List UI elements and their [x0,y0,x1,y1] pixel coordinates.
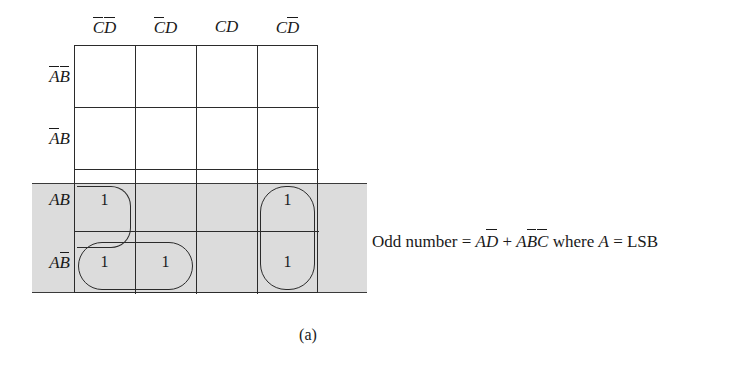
row-header-2: AB [18,189,70,211]
equation-where: where [553,232,595,251]
group-loop-ad-bar [260,186,315,290]
equation-rhs: LSB [627,232,658,251]
equation-term-2: ABC [516,232,548,251]
cell-r1c2 [196,107,257,169]
cell-r0c1 [135,45,196,107]
cell-r0c0 [74,45,135,107]
equation-equals-2: = [613,232,623,251]
equation-equals-1: = [462,232,472,251]
column-header-3: CD [257,16,318,39]
equation-term-1: AD [476,232,499,251]
row-header-3: AB [18,251,70,274]
equation-lhs: Odd number [372,232,457,251]
equation-variable: A [598,232,608,251]
cell-r2c2 [196,169,257,231]
column-header-2: CD [196,16,257,38]
column-header-1: CD [135,16,196,39]
result-equation: Odd number = AD + ABC where A = LSB [372,228,658,255]
row-header-1: AB [18,127,70,150]
cell-r1c0 [74,107,135,169]
figure-caption: (a) [278,326,338,344]
group-loop-abc-lower [78,242,193,290]
equation-plus: + [502,232,512,251]
cell-r0c2 [196,45,257,107]
cell-r1c3 [257,107,318,169]
karnaugh-map-figure: CD CD CD CD AB AB AB AB 1 1 1 1 1 Odd nu… [0,0,749,372]
group-loop-abc-upper [77,186,131,248]
cell-r0c3 [257,45,318,107]
row-header-0: AB [18,65,70,88]
cell-r3c2 [196,231,257,293]
cell-r1c1 [135,107,196,169]
column-header-0: CD [74,16,135,39]
cell-r2c1 [135,169,196,231]
